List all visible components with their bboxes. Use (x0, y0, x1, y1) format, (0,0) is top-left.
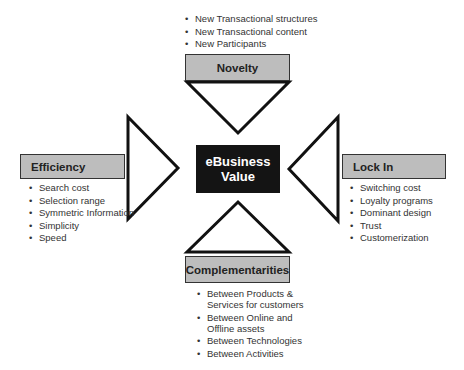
complementarities-item: Between Online and Offline assets (197, 312, 304, 334)
complementarities-label-text: Complementarities (186, 264, 290, 276)
complementarities-item: Between Products & Services for customer… (197, 288, 304, 310)
lock-in-item: Loyalty programs (350, 195, 433, 208)
lock-in-label: Lock In (342, 154, 446, 179)
ebusiness-value-box: eBusiness Value (196, 145, 280, 193)
lock-in-arrow-triangle (289, 117, 338, 221)
novelty-item: New Transactional structures (185, 13, 318, 26)
complementarities-list: Between Products & Services for customer… (197, 288, 304, 360)
lock-in-item: Switching cost (350, 182, 433, 195)
efficiency-item: Speed (29, 232, 134, 245)
complementarities-arrow-triangle (187, 202, 289, 252)
complementarities-item: Between Technologies (197, 335, 304, 346)
complementarities-label: Complementarities (185, 256, 290, 283)
novelty-arrow-triangle (187, 82, 289, 133)
efficiency-label-text: Efficiency (31, 161, 85, 173)
lock-in-item: Customerization (350, 232, 433, 245)
efficiency-item: Simplicity (29, 220, 134, 233)
complementarities-item: Between Activities (197, 348, 304, 359)
efficiency-item: Symmetric Information (29, 207, 134, 220)
lock-in-list: Switching cost Loyalty programs Dominant… (350, 182, 433, 245)
novelty-item: New Transactional content (185, 26, 318, 39)
lock-in-label-text: Lock In (353, 161, 393, 173)
efficiency-list: Search cost Selection range Symmetric In… (29, 182, 134, 245)
lock-in-item: Dominant design (350, 207, 433, 220)
efficiency-item: Search cost (29, 182, 134, 195)
center-line-2: Value (221, 169, 255, 184)
novelty-list: New Transactional structures New Transac… (185, 13, 318, 51)
efficiency-label: Efficiency (20, 154, 125, 179)
lock-in-item: Trust (350, 220, 433, 233)
efficiency-arrow-triangle (128, 117, 178, 219)
novelty-item: New Participants (185, 38, 318, 51)
ebusiness-value-diagram: New Transactional structures New Transac… (0, 0, 464, 370)
novelty-label-text: Novelty (217, 62, 259, 74)
efficiency-item: Selection range (29, 195, 134, 208)
center-line-1: eBusiness (205, 154, 270, 169)
novelty-label: Novelty (185, 54, 290, 81)
